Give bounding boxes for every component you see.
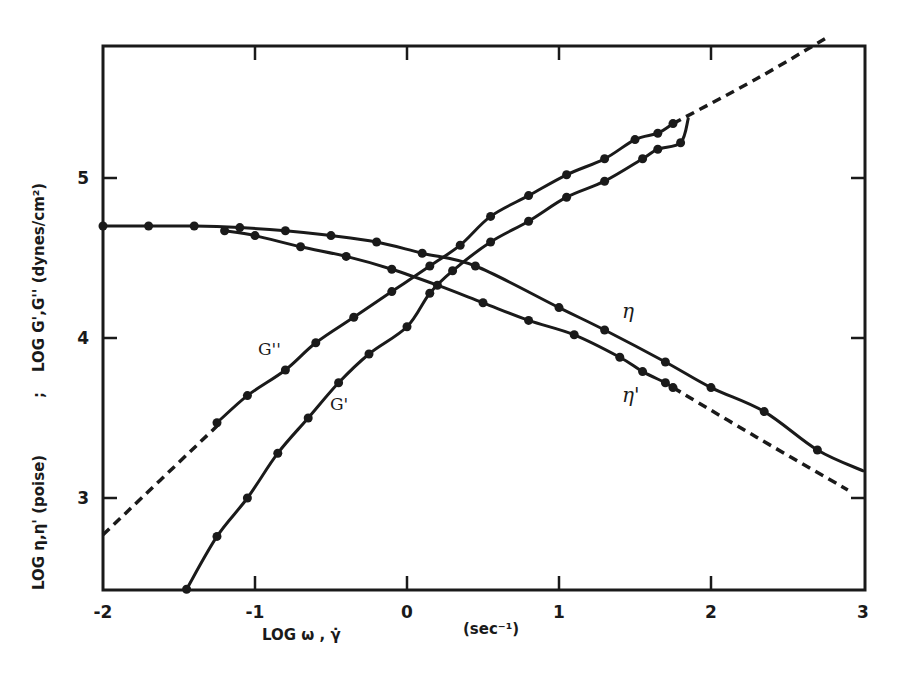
- curve-G-double-prime-dashed-extension: [673, 39, 825, 124]
- marker-eta-prime: [638, 367, 647, 376]
- axis-ticks: -2-10123345: [77, 46, 869, 622]
- marker-eta: [555, 303, 564, 312]
- y-axis-title-viscosity: LOG η,η' (poise): [30, 455, 48, 590]
- y-tick-label: 5: [77, 168, 89, 188]
- marker-G-prime: [600, 177, 609, 186]
- y-tick-label: 3: [77, 488, 89, 508]
- marker-eta: [281, 226, 290, 235]
- x-tick-label: 3: [857, 602, 869, 622]
- marker-eta: [760, 407, 769, 416]
- marker-G-prime: [304, 414, 313, 423]
- marker-eta: [372, 238, 381, 247]
- marker-G-double-prime: [653, 129, 662, 138]
- marker-eta: [418, 249, 427, 258]
- label-g-prime: G': [330, 394, 348, 414]
- marker-eta: [190, 222, 199, 231]
- marker-G-prime: [365, 350, 374, 359]
- marker-G-double-prime: [243, 391, 252, 400]
- marker-G-prime: [182, 585, 191, 594]
- chart: -2-10123345 η η' G'' G' LOG ω , γ̇ (sec⁻…: [0, 0, 903, 681]
- marker-G-prime: [334, 378, 343, 387]
- marker-G-double-prime: [562, 170, 571, 179]
- marker-G-double-prime: [456, 241, 465, 250]
- marker-G-double-prime: [387, 287, 396, 296]
- label-eta: η: [622, 299, 634, 323]
- marker-G-prime: [676, 138, 685, 147]
- marker-eta-prime: [251, 231, 260, 240]
- marker-G-double-prime: [213, 418, 222, 427]
- marker-eta: [235, 223, 244, 232]
- marker-eta: [471, 262, 480, 271]
- y-axis-title-modulus: LOG G',G'' (dynes/cm²): [30, 183, 48, 372]
- marker-G-prime: [243, 494, 252, 503]
- marker-eta-prime: [661, 378, 670, 387]
- marker-eta: [327, 231, 336, 240]
- marker-G-prime: [403, 322, 412, 331]
- marker-G-prime: [486, 238, 495, 247]
- marker-G-prime: [273, 449, 282, 458]
- marker-G-double-prime: [281, 366, 290, 375]
- x-tick-label: 0: [401, 602, 413, 622]
- marker-eta: [144, 222, 153, 231]
- marker-eta-prime: [479, 298, 488, 307]
- curve-eta-prime-dashed-extension: [673, 388, 848, 490]
- marker-G-double-prime: [486, 212, 495, 221]
- marker-eta: [99, 222, 108, 231]
- plot-frame: [103, 46, 865, 590]
- marker-eta: [707, 383, 716, 392]
- label-g-double-prime: G'': [258, 339, 281, 359]
- marker-G-prime: [448, 266, 457, 275]
- marker-eta-prime: [387, 265, 396, 274]
- marker-eta: [813, 446, 822, 455]
- marker-G-prime: [653, 145, 662, 154]
- y-axis-title: LOG η,η' (poise) ; LOG G',G'' (dynes/cm²…: [30, 183, 48, 590]
- marker-eta-prime: [342, 252, 351, 261]
- x-axis-title: LOG ω , γ̇: [262, 626, 341, 644]
- marker-G-prime: [638, 154, 647, 163]
- marker-eta-prime: [524, 316, 533, 325]
- x-tick-label: 1: [553, 602, 565, 622]
- data-curves: [103, 39, 863, 589]
- y-axis-title-separator: ;: [30, 392, 48, 398]
- y-tick-label: 4: [77, 328, 89, 348]
- marker-eta: [661, 358, 670, 367]
- marker-eta-prime: [615, 353, 624, 362]
- x-tick-label: 2: [705, 602, 717, 622]
- data-markers: [99, 119, 822, 594]
- marker-G-double-prime: [600, 154, 609, 163]
- x-tick-label: -1: [246, 602, 265, 622]
- marker-G-prime: [524, 217, 533, 226]
- marker-eta-prime: [570, 330, 579, 339]
- label-eta-prime: η': [622, 383, 639, 407]
- marker-eta: [600, 326, 609, 335]
- curve-G-double-prime-dashed-start: [103, 426, 217, 535]
- marker-eta-prime: [296, 242, 305, 251]
- marker-G-double-prime: [524, 191, 533, 200]
- x-axis-unit: (sec⁻¹): [463, 620, 519, 638]
- curve-G-double-prime: [217, 124, 673, 423]
- marker-G-prime: [562, 193, 571, 202]
- marker-eta-prime: [220, 226, 229, 235]
- plot-border: [103, 46, 865, 590]
- marker-G-double-prime: [631, 135, 640, 144]
- marker-G-prime: [213, 532, 222, 541]
- marker-G-double-prime: [425, 262, 434, 271]
- marker-G-double-prime: [669, 119, 678, 128]
- curve-eta: [103, 226, 863, 471]
- marker-G-double-prime: [311, 338, 320, 347]
- x-tick-label: -2: [94, 602, 113, 622]
- marker-eta-prime: [433, 281, 442, 290]
- marker-G-double-prime: [349, 313, 358, 322]
- marker-eta-prime: [669, 383, 678, 392]
- marker-G-prime: [425, 289, 434, 298]
